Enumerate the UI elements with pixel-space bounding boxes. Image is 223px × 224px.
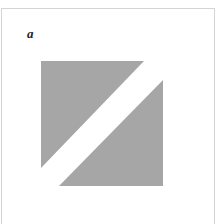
diagram-canvas <box>0 0 223 224</box>
